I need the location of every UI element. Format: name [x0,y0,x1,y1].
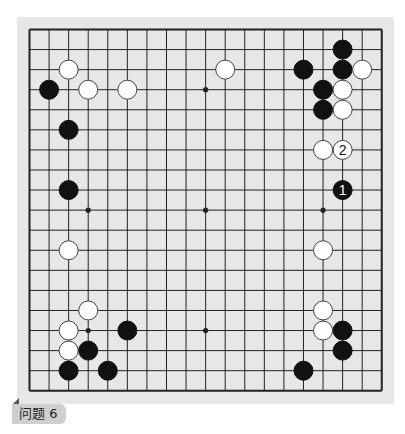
star-point [203,328,208,333]
black-stone[interactable] [79,341,98,360]
move-number: 1 [339,182,347,198]
black-stone[interactable] [59,120,78,139]
black-stone[interactable] [294,361,313,380]
black-stone[interactable] [333,341,352,360]
star-point [203,208,208,213]
white-stone[interactable] [216,60,235,79]
problem-label: 问题 6 [12,404,66,424]
white-stone[interactable] [59,341,78,360]
black-stone[interactable] [314,80,333,99]
black-stone[interactable] [333,40,352,59]
white-stone[interactable] [59,241,78,260]
white-stone[interactable] [118,80,137,99]
black-stone[interactable] [118,321,137,340]
move-number: 2 [339,142,347,158]
white-stone[interactable] [314,301,333,320]
star-point [86,328,91,333]
go-board[interactable]: 21 [17,17,394,404]
white-stone[interactable] [79,80,98,99]
star-point [86,208,91,213]
black-stone[interactable]: 1 [333,181,352,200]
white-stone[interactable] [314,241,333,260]
star-point [203,87,208,92]
white-stone[interactable] [314,140,333,159]
white-stone[interactable] [353,60,372,79]
white-stone[interactable] [314,321,333,340]
black-stone[interactable] [98,361,117,380]
black-stone[interactable] [59,181,78,200]
black-stone[interactable] [333,321,352,340]
black-stone[interactable] [333,60,352,79]
white-stone[interactable] [333,100,352,119]
white-stone[interactable] [59,321,78,340]
black-stone[interactable] [314,100,333,119]
star-point [320,208,325,213]
black-stone[interactable] [294,60,313,79]
white-stone[interactable] [79,301,98,320]
white-stone[interactable]: 2 [333,140,352,159]
board-grid[interactable]: 21 [0,0,405,434]
black-stone[interactable] [40,80,59,99]
white-stone[interactable] [333,80,352,99]
white-stone[interactable] [59,60,78,79]
black-stone[interactable] [59,361,78,380]
